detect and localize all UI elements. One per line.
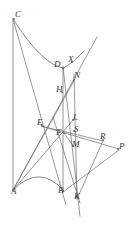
segments-group — [13, 19, 119, 216]
points-group — [12, 18, 119, 198]
label-a: A — [11, 187, 17, 196]
label-m: M — [72, 140, 80, 149]
label-f: F — [56, 128, 62, 137]
line-E-to-P — [41, 126, 119, 149]
label-x: X — [68, 55, 74, 64]
label-n: N — [74, 71, 80, 80]
label-p: P — [119, 142, 125, 151]
label-c: C — [15, 10, 21, 19]
geometry-figure: CDXNHELFSMRPABK — [0, 0, 133, 230]
point-f — [63, 132, 65, 134]
figure-canvas — [0, 0, 133, 230]
label-e: E — [37, 118, 43, 127]
label-s: S — [74, 125, 79, 134]
lower-arc-A-B — [13, 177, 64, 191]
line-B-to-P — [63, 150, 119, 192]
label-r: R — [100, 132, 106, 141]
label-k: K — [74, 192, 80, 201]
curves-group — [13, 19, 84, 191]
line-A-to-N — [13, 79, 75, 190]
line-R-to-K — [77, 141, 103, 199]
label-h: H — [56, 85, 63, 94]
label-b: B — [58, 186, 64, 195]
label-l: L — [73, 113, 78, 122]
label-d: D — [54, 60, 61, 69]
point-d — [62, 67, 64, 69]
